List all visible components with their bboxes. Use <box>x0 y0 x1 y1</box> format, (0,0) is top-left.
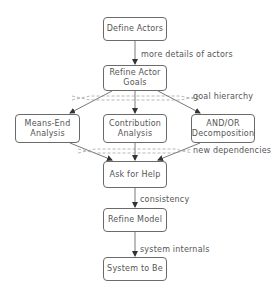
edge-goals-to-means-end <box>70 91 112 113</box>
node-and-or-decomposition: AND/OR Decomposition <box>191 114 255 143</box>
label-more-details-of-actors: more details of actors <box>141 50 233 60</box>
goal-hierarchy-dashed-top <box>72 96 200 100</box>
label-new-dependencies: new dependencies <box>193 146 271 156</box>
label-consistency: consistency <box>140 195 189 205</box>
node-define-actors: Define Actors <box>103 17 167 41</box>
node-contribution-analysis: Contribution Analysis <box>103 114 167 143</box>
label-system-internals: system internals <box>140 245 210 255</box>
edge-means-end-to-ask <box>70 143 112 160</box>
node-means-end-analysis: Means-End Analysis <box>15 114 80 143</box>
label-goal-hierarchy: goal hierarchy <box>193 92 253 102</box>
node-system-to-be: System to Be <box>103 257 167 281</box>
node-ask-for-help: Ask for Help <box>103 161 167 188</box>
node-refine-actor-goals: Refine Actor Goals <box>103 65 167 91</box>
process-diagram: Define Actors Refine Actor Goals Means-E… <box>0 0 274 293</box>
node-refine-model: Refine Model <box>103 208 167 232</box>
goal-hierarchy-dashed-bottom <box>72 96 200 100</box>
